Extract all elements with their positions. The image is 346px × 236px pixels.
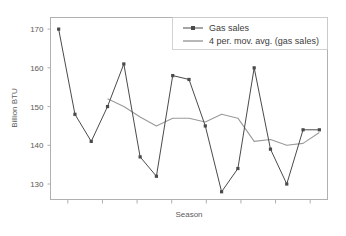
legend-label-gas-sales: Gas sales xyxy=(209,23,250,33)
legend-swatch-marker-gas-sales xyxy=(191,26,195,30)
data-point-marker xyxy=(301,128,304,131)
y-axis-title: Billion BTU xyxy=(10,88,19,128)
data-point-marker xyxy=(171,74,174,77)
data-point-marker xyxy=(106,105,109,108)
data-point-marker xyxy=(73,113,76,116)
chart-container: 130140150160170 Billion BTU Season Gas s… xyxy=(0,0,346,236)
data-point-marker xyxy=(253,66,256,69)
y-tick-label: 170 xyxy=(30,25,44,34)
y-tick-label: 140 xyxy=(30,141,44,150)
line-chart: 130140150160170 Billion BTU Season Gas s… xyxy=(0,0,346,236)
data-point-marker xyxy=(187,78,190,81)
y-tick-label: 160 xyxy=(30,64,44,73)
y-tick-label: 150 xyxy=(30,103,44,112)
data-point-marker xyxy=(122,62,125,65)
legend: Gas sales 4 per. mov. avg. (gas sales) xyxy=(173,18,328,50)
x-axis-title: Season xyxy=(175,210,202,219)
data-point-marker xyxy=(155,175,158,178)
data-point-marker xyxy=(204,124,207,127)
data-point-marker xyxy=(285,182,288,185)
data-point-marker xyxy=(220,190,223,193)
data-point-marker xyxy=(269,148,272,151)
data-point-marker xyxy=(318,128,321,131)
y-tick-label: 130 xyxy=(30,180,44,189)
data-point-marker xyxy=(57,28,60,31)
data-point-marker xyxy=(90,140,93,143)
data-point-marker xyxy=(236,167,239,170)
legend-label-moving-average: 4 per. mov. avg. (gas sales) xyxy=(209,36,319,46)
data-point-marker xyxy=(139,155,142,158)
